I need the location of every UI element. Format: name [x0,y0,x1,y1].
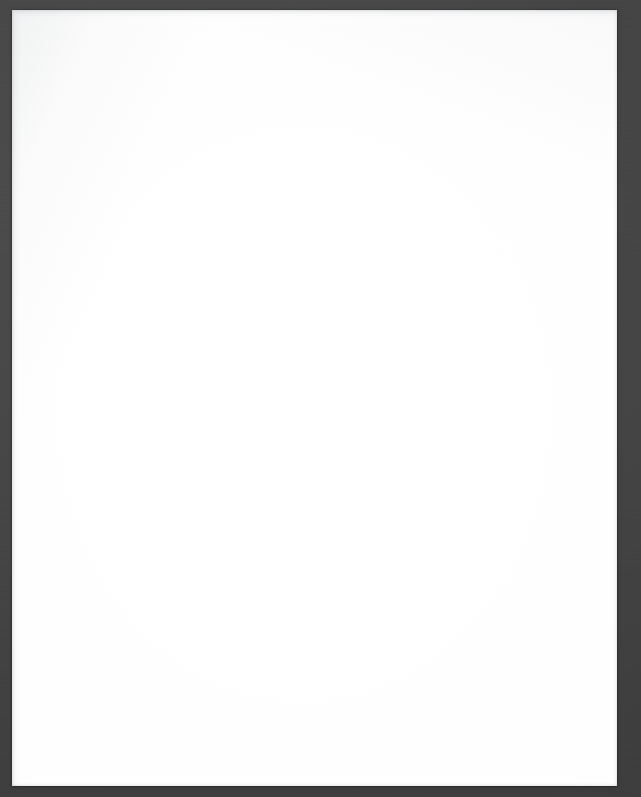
ink-variation-overlay [12,10,617,786]
paper-edge-shading [12,10,617,786]
paper-tone-overlay [12,10,617,786]
grid-paper-sheet [12,10,617,786]
grid-lines-layer [12,10,617,786]
